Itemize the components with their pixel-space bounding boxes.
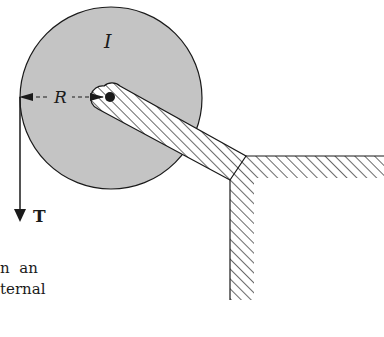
caption-line-1: n an: [0, 259, 38, 277]
tension-arrow-head: [14, 209, 26, 222]
tension-label: T: [33, 206, 46, 226]
wall-support: [230, 156, 384, 300]
caption-line-2: ternal: [0, 280, 45, 298]
inertia-label: I: [103, 30, 112, 52]
axle: [105, 92, 115, 102]
pulley-diagram: R I T: [0, 0, 384, 337]
radius-label: R: [53, 87, 67, 107]
